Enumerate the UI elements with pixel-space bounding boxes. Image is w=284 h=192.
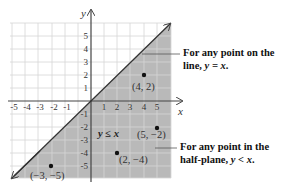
svg-text:(4, 2): (4, 2) <box>132 81 155 93</box>
svg-text:-2: -2 <box>50 102 58 112</box>
svg-text:(5, −2): (5, −2) <box>137 129 166 141</box>
svg-text:5: 5 <box>84 31 89 41</box>
x-axis-label: x <box>177 105 183 117</box>
svg-text:3: 3 <box>128 102 133 112</box>
svg-text:4: 4 <box>84 44 89 54</box>
svg-text:-3: -3 <box>36 102 44 112</box>
svg-text:4: 4 <box>142 102 147 112</box>
svg-text:-4: -4 <box>81 148 89 158</box>
svg-text:-5: -5 <box>10 102 18 112</box>
region-label: y ≤ x <box>96 128 119 139</box>
callout-halfplane-text-1: For any point in the <box>180 140 269 153</box>
svg-text:-4: -4 <box>23 102 31 112</box>
callout-line-text: For any point on the line, y = x. <box>183 46 274 72</box>
callout-halfplane-text-2: half-plane, y < x. <box>180 153 269 166</box>
svg-text:-2: -2 <box>81 122 89 132</box>
svg-text:-1: -1 <box>63 102 71 112</box>
svg-text:3: 3 <box>84 57 89 67</box>
point-5-neg2: (5, −2) <box>137 126 166 141</box>
svg-text:-5: -5 <box>81 161 89 171</box>
point-2-neg4: (2, −4) <box>115 151 148 166</box>
svg-text:1: 1 <box>102 102 107 112</box>
svg-text:2: 2 <box>84 70 89 80</box>
y-axis-label: y <box>80 7 86 19</box>
svg-text:2: 2 <box>115 102 120 112</box>
svg-text:1: 1 <box>84 83 89 93</box>
callout-halfplane-text: For any point in the half-plane, y < x. <box>180 140 269 166</box>
svg-text:(−3, −5): (−3, −5) <box>30 170 65 182</box>
svg-text:5: 5 <box>155 102 160 112</box>
svg-text:-1: -1 <box>81 109 89 119</box>
svg-text:-3: -3 <box>81 135 89 145</box>
callout-line-text-2: line, y = x. <box>183 59 274 72</box>
callout-line-text-1: For any point on the <box>183 46 274 59</box>
svg-text:(2, −4): (2, −4) <box>119 154 148 166</box>
